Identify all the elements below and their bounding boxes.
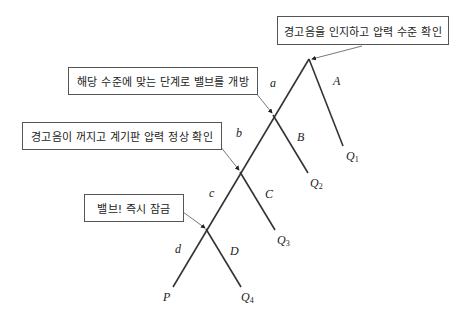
event-tree-lines [0,0,474,323]
outcome-Q3: Q3 [277,233,290,248]
success-label-d: d [175,242,181,257]
callout-arrow-2 [256,93,272,113]
callout-box-step-3: 경고음이 꺼지고 계기판 압력 정상 확인 [22,122,222,150]
failure-label-C: C [265,187,273,202]
outcome-Q2: Q2 [310,176,323,191]
outcome-Q1: Q1 [346,149,359,164]
callout-arrow-3 [220,146,239,170]
callout-box-step-2: 해당 수준에 맞는 단계로 밸브를 개방 [68,67,258,95]
outcome-Q4: Q4 [241,290,254,305]
failure-label-D: D [230,244,239,259]
callout-box-step-4: 밸브! 즉시 잠금 [84,194,184,222]
callout-box-step-1: 경고음을 인지하고 압력 수준 확인 [277,16,449,45]
callout-arrow-1 [312,46,362,59]
end-label-P: P [163,290,170,305]
failure-label-A: A [333,74,340,89]
failure-label-B: B [297,130,304,145]
success-label-b: b [236,126,242,141]
success-label-a: a [270,76,276,91]
success-label-c: c [209,186,214,201]
callout-arrow-4 [183,212,205,228]
branch-line-a [309,59,343,146]
